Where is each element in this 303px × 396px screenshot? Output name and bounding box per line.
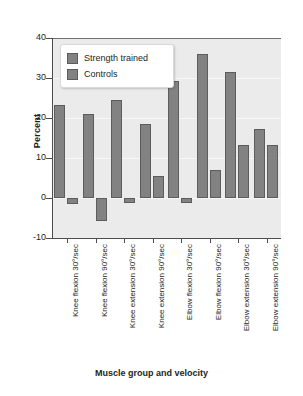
y-axis-tick-label: 20 (18, 113, 46, 122)
x-axis-line (52, 238, 281, 239)
x-axis-tick-label: Elbow flexion 90°/sec (214, 244, 223, 354)
y-axis-tick-label: -10 (18, 233, 46, 242)
y-axis-tick (46, 198, 52, 199)
y-axis-tick (46, 158, 52, 159)
x-axis-title: Muscle group and velocity (0, 368, 303, 378)
bar (210, 170, 221, 198)
bar (238, 145, 249, 198)
bar (254, 129, 265, 198)
legend-label: Controls (84, 69, 118, 79)
bar (111, 100, 122, 198)
bar (96, 198, 107, 221)
x-axis-tick-label: Elbow extension 90°/sec (271, 244, 280, 354)
y-axis-tick (46, 238, 52, 239)
legend-item: Controls (67, 66, 167, 82)
bar (225, 72, 236, 198)
y-axis-tick-label: 10 (18, 153, 46, 162)
zero-baseline (53, 38, 281, 39)
bar (168, 81, 179, 198)
y-axis-tick-label: 40 (18, 33, 46, 42)
y-axis-tick-label: 0 (18, 193, 46, 202)
x-axis-tick-label: Knee extension 30°/sec (128, 244, 137, 354)
y-axis-tick (46, 118, 52, 119)
bar (140, 124, 151, 198)
x-axis-tick-labels: Knee flexion 30°/secKnee flexion 90°/sec… (0, 242, 303, 357)
x-axis-tick-label: Knee extension 90°/sec (157, 244, 166, 354)
y-axis-tick (46, 38, 52, 39)
legend-label: Strength trained (84, 53, 148, 63)
bar (67, 198, 78, 204)
legend-swatch-icon (67, 53, 78, 64)
bar (54, 105, 65, 198)
bar (197, 54, 208, 198)
x-axis-tick-label: Elbow extension 30°/sec (242, 244, 251, 354)
bar-chart-figure: Percent -10010203040 Strength trainedCon… (0, 0, 303, 396)
legend: Strength trainedControls (60, 44, 174, 88)
legend-swatch-icon (67, 69, 78, 80)
bar (124, 198, 135, 203)
y-axis-tick-label: 30 (18, 73, 46, 82)
gridline (53, 198, 281, 199)
y-axis-line (52, 38, 53, 239)
legend-item: Strength trained (67, 50, 167, 66)
y-axis-tick (46, 78, 52, 79)
x-axis-tick-label: Knee flexion 30°/sec (71, 244, 80, 354)
bar (83, 114, 94, 198)
bar (267, 145, 278, 198)
x-axis-tick-label: Knee flexion 90°/sec (100, 244, 109, 354)
bar (153, 176, 164, 198)
bar (181, 198, 192, 203)
x-axis-tick-label: Elbow flexion 30°/sec (185, 244, 194, 354)
